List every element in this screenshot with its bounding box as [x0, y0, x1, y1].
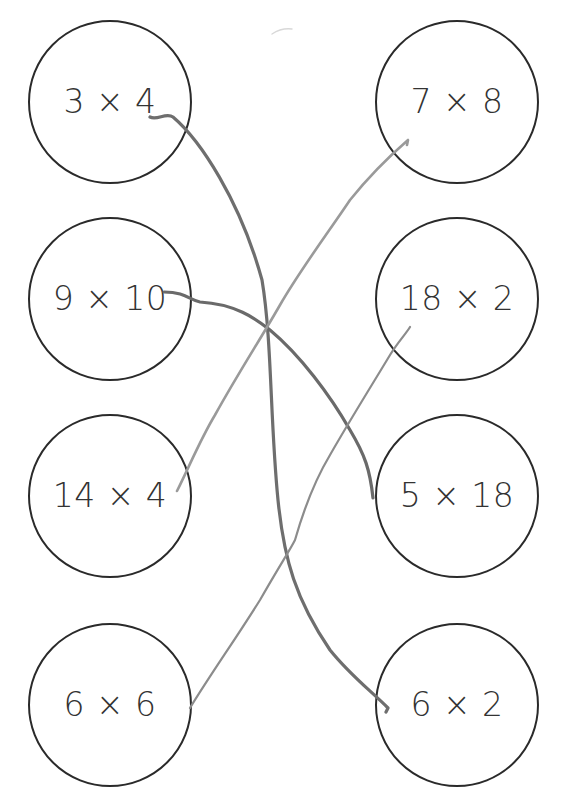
expression-label: 3 × 4: [63, 82, 156, 121]
expression-label: 18 × 2: [400, 279, 515, 318]
expression-label: 14 × 4: [53, 476, 168, 515]
left-circle-1[interactable]: 3 × 4: [28, 20, 192, 184]
connection-line-2[interactable]: [164, 292, 373, 498]
right-circle-4[interactable]: 6 × 2: [375, 623, 539, 787]
expression-label: 7 × 8: [410, 82, 503, 121]
right-circle-3[interactable]: 5 × 18: [375, 414, 539, 578]
connection-line-1[interactable]: [150, 115, 388, 712]
expression-label: 6 × 6: [63, 685, 156, 724]
expression-label: 5 × 18: [400, 476, 515, 515]
left-circle-3[interactable]: 14 × 4: [28, 414, 192, 578]
expression-label: 9 × 10: [53, 279, 168, 318]
connection-line-3[interactable]: [177, 140, 408, 491]
stray-pen-mark: [272, 29, 292, 34]
left-circle-2[interactable]: 9 × 10: [28, 217, 192, 381]
expression-label: 6 × 2: [410, 685, 503, 724]
right-circle-1[interactable]: 7 × 8: [375, 20, 539, 184]
right-circle-2[interactable]: 18 × 2: [375, 217, 539, 381]
matching-worksheet: 3 × 49 × 1014 × 46 × 6 7 × 818 × 25 × 18…: [0, 0, 564, 798]
left-circle-4[interactable]: 6 × 6: [28, 623, 192, 787]
